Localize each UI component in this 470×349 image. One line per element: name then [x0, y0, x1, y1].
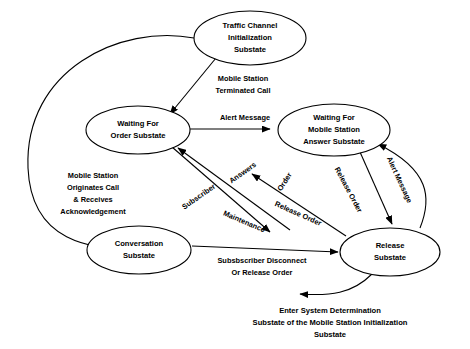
edge-initialization-to-waiting-for-order: [170, 58, 216, 114]
edge-label-alert-message-right: Alert Message: [385, 155, 414, 204]
edge-label-line: Mobile Station: [68, 171, 119, 180]
state-label-line: Substate: [374, 253, 406, 262]
state-ellipse[interactable]: [340, 228, 440, 276]
edge-label-line: Mobile Station: [218, 74, 269, 83]
state-label-line: Substate: [234, 45, 266, 54]
edge-label-release-order-upper: Release Order: [333, 166, 365, 215]
edge-label-answers: Answers: [227, 160, 257, 185]
state-waiting-for-order[interactable]: Waiting For Order Substate: [86, 106, 190, 154]
state-label-line: Waiting For: [313, 113, 355, 122]
state-label-line: Release: [376, 241, 405, 250]
edge-label-line: Acknowledgement: [60, 207, 126, 216]
caption-line: Substate: [314, 330, 346, 339]
edge-label-subscriber: Subscriber: [180, 182, 217, 212]
state-label-line: Mobile Station: [308, 125, 360, 134]
state-ellipse[interactable]: [87, 226, 191, 274]
states-layer: Traffic Channel Initialization Substate …: [86, 11, 440, 276]
state-label-line: Conversation: [115, 239, 164, 248]
edge-label-order: Order: [275, 171, 293, 193]
state-label-line: Answer Substate: [303, 137, 365, 146]
edge-conversation-to-release: [192, 246, 338, 252]
edge-label-line: & Receives: [73, 195, 112, 204]
edge-label-mobile-station-originates-call: Mobile Station Originates Call & Receive…: [60, 171, 126, 216]
state-ellipse[interactable]: [86, 106, 190, 154]
state-diagram: Traffic Channel Initialization Substate …: [0, 0, 470, 349]
state-label-line: Substate: [123, 251, 155, 260]
state-conversation[interactable]: Conversation Substate: [87, 226, 191, 274]
edge-label-line: Terminated Call: [216, 86, 271, 95]
caption-layer: Enter System Determination Substate of t…: [253, 306, 408, 339]
edge-label-mobile-station-terminated-call: Mobile Station Terminated Call: [216, 74, 271, 95]
edge-release-to-system-determination: [300, 274, 372, 295]
diagram-canvas: Traffic Channel Initialization Substate …: [0, 0, 470, 349]
edge-label-maintenance: Maintenance: [222, 209, 267, 235]
caption-line: Substate of the Mobile Station Initializ…: [253, 318, 408, 327]
state-label-line: Order Substate: [111, 131, 166, 140]
state-traffic-channel-initialization[interactable]: Traffic Channel Initialization Substate: [194, 11, 306, 65]
edge-label-subscriber-disconnect: Subsbscriber Disconnect Or Release Order: [217, 256, 307, 277]
state-label-line: Traffic Channel: [223, 21, 278, 30]
state-waiting-for-mobile-station-answer[interactable]: Waiting For Mobile Station Answer Substa…: [278, 104, 390, 156]
edge-label-line: Originates Call: [67, 183, 119, 192]
caption-line: Enter System Determination: [279, 306, 381, 315]
edge-label-line: Subsbscriber Disconnect: [217, 256, 307, 265]
state-label-line: Initialization: [228, 33, 272, 42]
state-release[interactable]: Release Substate: [340, 228, 440, 276]
state-label-line: Waiting For: [117, 119, 159, 128]
edge-waiting-for-order-to-conversation: [172, 147, 270, 232]
edge-label-line: Or Release Order: [232, 268, 293, 277]
edge-label-alert-message-top: Alert Message: [220, 113, 270, 122]
